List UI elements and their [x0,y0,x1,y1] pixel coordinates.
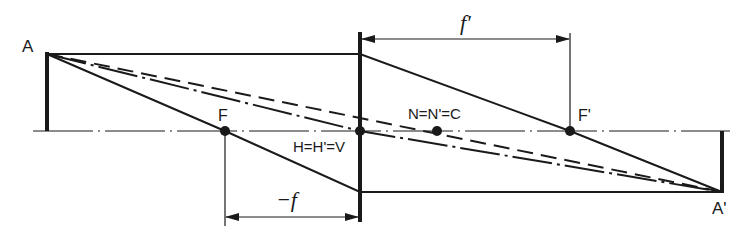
label-back-focal-point: F' [578,107,591,124]
label-front-focal-point: F [218,107,228,124]
label-object-point: A [22,37,34,56]
label-image-point: A' [712,199,727,218]
principal-point-h [355,126,365,136]
label-principal-points: H=H'=V [293,138,345,155]
lens-diagram: A A' F F' H=H'=V N=N'=C f' −f [0,0,748,232]
label-back-focal-length: f' [460,10,471,35]
nodal-ray [47,54,722,192]
label-front-focal-length: −f [276,187,300,212]
nodal-point-n [432,126,442,136]
label-nodal-points: N=N'=C [408,105,461,122]
